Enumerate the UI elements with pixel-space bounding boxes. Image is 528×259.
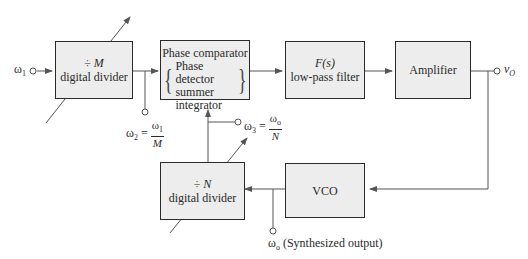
w3-equation: ω3 = ωoN [244,112,282,142]
output-terminal [494,68,500,74]
phase-comparator-block: Phase comparator { Phase detector summer… [160,40,250,100]
w2-terminal [142,109,148,115]
output-label: vO [504,62,515,78]
amplifier-block: Amplifier [395,41,471,99]
divide-by-m-block: ÷ M digital divider [55,41,133,99]
w2-equation: ω2 = ω1M [126,119,164,149]
low-pass-filter-block: F(s) low-pass filter [285,41,365,99]
divide-by-n-block: ÷ N digital divider [160,162,245,220]
input-terminal [30,68,36,74]
input-label: ω1 [14,62,26,78]
w3-terminal [235,119,241,125]
synthesized-output-label: ωo (Synthesized output) [268,236,383,252]
synth-terminal [270,228,276,234]
vco-block: VCO [285,163,365,218]
